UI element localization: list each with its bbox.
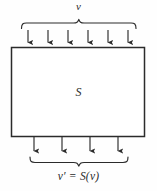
output-brace [30, 157, 128, 166]
input-signal-label: v [0, 1, 157, 12]
input-arrow-group [28, 30, 128, 43]
system-block-label: S [0, 86, 157, 98]
block-diagram-figure: v S v′ = S(v) [0, 0, 157, 191]
output-signal-label: v′ = S(v) [0, 171, 157, 183]
input-brace [22, 19, 137, 28]
output-arrow-group [34, 137, 118, 151]
